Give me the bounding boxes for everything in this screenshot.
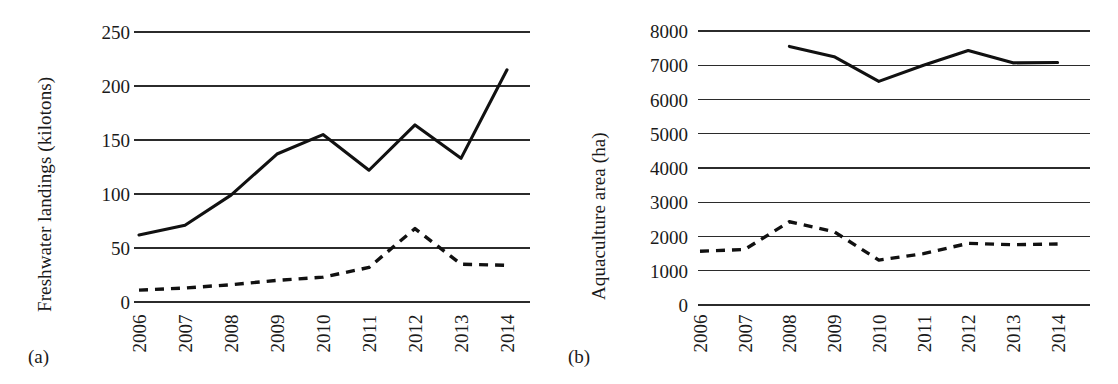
x-tick-label: 2009 [268, 308, 287, 360]
figure-two-panel-line-charts: Freshwater landings (kilotons) 050100150… [0, 0, 1118, 384]
x-tick-label: 2013 [1003, 308, 1022, 360]
panel-b-label: (b) [568, 347, 590, 366]
y-tick-label: 6000 [650, 90, 688, 109]
x-tick-label: 2011 [360, 308, 379, 360]
x-tick-label: 2009 [825, 308, 844, 360]
panel-a: Freshwater landings (kilotons) 050100150… [0, 0, 558, 384]
x-tick-label: 2013 [452, 308, 471, 360]
x-tick-label: 2008 [222, 308, 241, 360]
x-tick-label: 2010 [869, 308, 888, 360]
y-tick-label: 7000 [650, 56, 688, 75]
y-tick-label: 4000 [650, 159, 688, 178]
x-tick-label: 2010 [314, 308, 333, 360]
x-tick-label: 2012 [406, 308, 425, 360]
y-tick-label: 8000 [650, 22, 688, 41]
y-tick-label: 3000 [650, 193, 688, 212]
series-line-area-solid [789, 46, 1057, 81]
series-line-capture-solid [139, 70, 507, 235]
x-tick-label: 2012 [959, 308, 978, 360]
panel-b-x-tick-labels: 200620072008200920102011201220132014 [558, 306, 1118, 376]
x-tick-label: 2006 [130, 308, 149, 360]
y-tick-label: 5000 [650, 124, 688, 143]
y-tick-label: 1000 [650, 261, 688, 280]
series-line-aquaculture-dashed [139, 229, 507, 291]
panel-a-label: (a) [28, 347, 49, 366]
y-tick-label: 100 [102, 185, 131, 204]
x-tick-label: 2007 [176, 308, 195, 360]
y-tick-label: 50 [111, 239, 130, 258]
panel-a-x-tick-labels: 200620072008200920102011201220132014 [0, 306, 558, 376]
y-tick-label: 150 [102, 131, 131, 150]
x-tick-label: 2006 [691, 308, 710, 360]
x-tick-label: 2007 [735, 308, 754, 360]
y-tick-label: 200 [102, 77, 131, 96]
x-tick-label: 2014 [1048, 308, 1067, 360]
series-line-area-dashed [700, 222, 1058, 260]
x-tick-label: 2008 [780, 308, 799, 360]
y-tick-label: 2000 [650, 227, 688, 246]
x-tick-label: 2014 [498, 308, 517, 360]
x-tick-label: 2011 [914, 308, 933, 360]
y-tick-label: 250 [102, 23, 131, 42]
panel-b: Aquaculture area (ha) 010002000300040005… [558, 0, 1118, 384]
